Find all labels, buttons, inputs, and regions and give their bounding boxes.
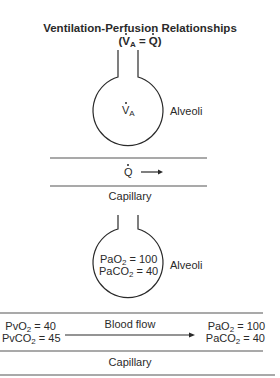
blood-flow-label: Blood flow [90, 318, 170, 330]
diagram-title: Ventilation-Perfusion Relationships (VA … [0, 22, 280, 48]
capillary-label-top: Capillary [90, 190, 170, 202]
va-symbol: VA [122, 104, 135, 116]
v-dot-symbol: V [122, 35, 130, 48]
title-line-2: (VA = Q) [0, 35, 280, 48]
venous-pvco2: PvCO2 = 45 [2, 332, 56, 344]
arterial-pao2: PaO2 = 100 [200, 320, 265, 332]
flow-arrow-icon [141, 170, 163, 175]
arterial-paco2: PaCO2 = 40 [200, 332, 265, 344]
alveolus-paco2: PaCO2 = 40 [99, 265, 158, 277]
alveolus-pao2: PaO2 = 100 [99, 253, 158, 265]
venous-pvo2: PvO2 = 40 [2, 320, 56, 332]
q-symbol: Q [124, 166, 133, 178]
venous-gas-values: PvO2 = 40 PvCO2 = 45 [2, 320, 56, 344]
title-line-1: Ventilation-Perfusion Relationships [0, 22, 280, 35]
alveoli-label-bottom: Alveoli [170, 259, 202, 271]
capillary-label-bottom: Capillary [90, 356, 170, 368]
q-dot-symbol: Q [149, 35, 158, 48]
blood-flow-arrow-icon [65, 333, 195, 338]
alveolus-gas-values: PaO2 = 100 PaCO2 = 40 [99, 253, 158, 277]
alveoli-label-top: Alveoli [170, 105, 202, 117]
alveolus-top [93, 50, 163, 146]
arterial-gas-values: PaO2 = 100 PaCO2 = 40 [200, 320, 265, 344]
